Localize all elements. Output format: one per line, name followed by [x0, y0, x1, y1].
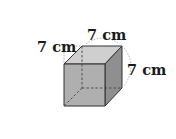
cube-diagram: 7 cm 7 cm 7 cm [0, 0, 176, 139]
label-left-edge: 7 cm [37, 38, 77, 55]
label-top-edge: 7 cm [87, 26, 127, 43]
cube-front-face [64, 64, 105, 106]
cube-svg: 7 cm 7 cm 7 cm [0, 0, 176, 139]
label-right-edge: 7 cm [127, 61, 167, 78]
